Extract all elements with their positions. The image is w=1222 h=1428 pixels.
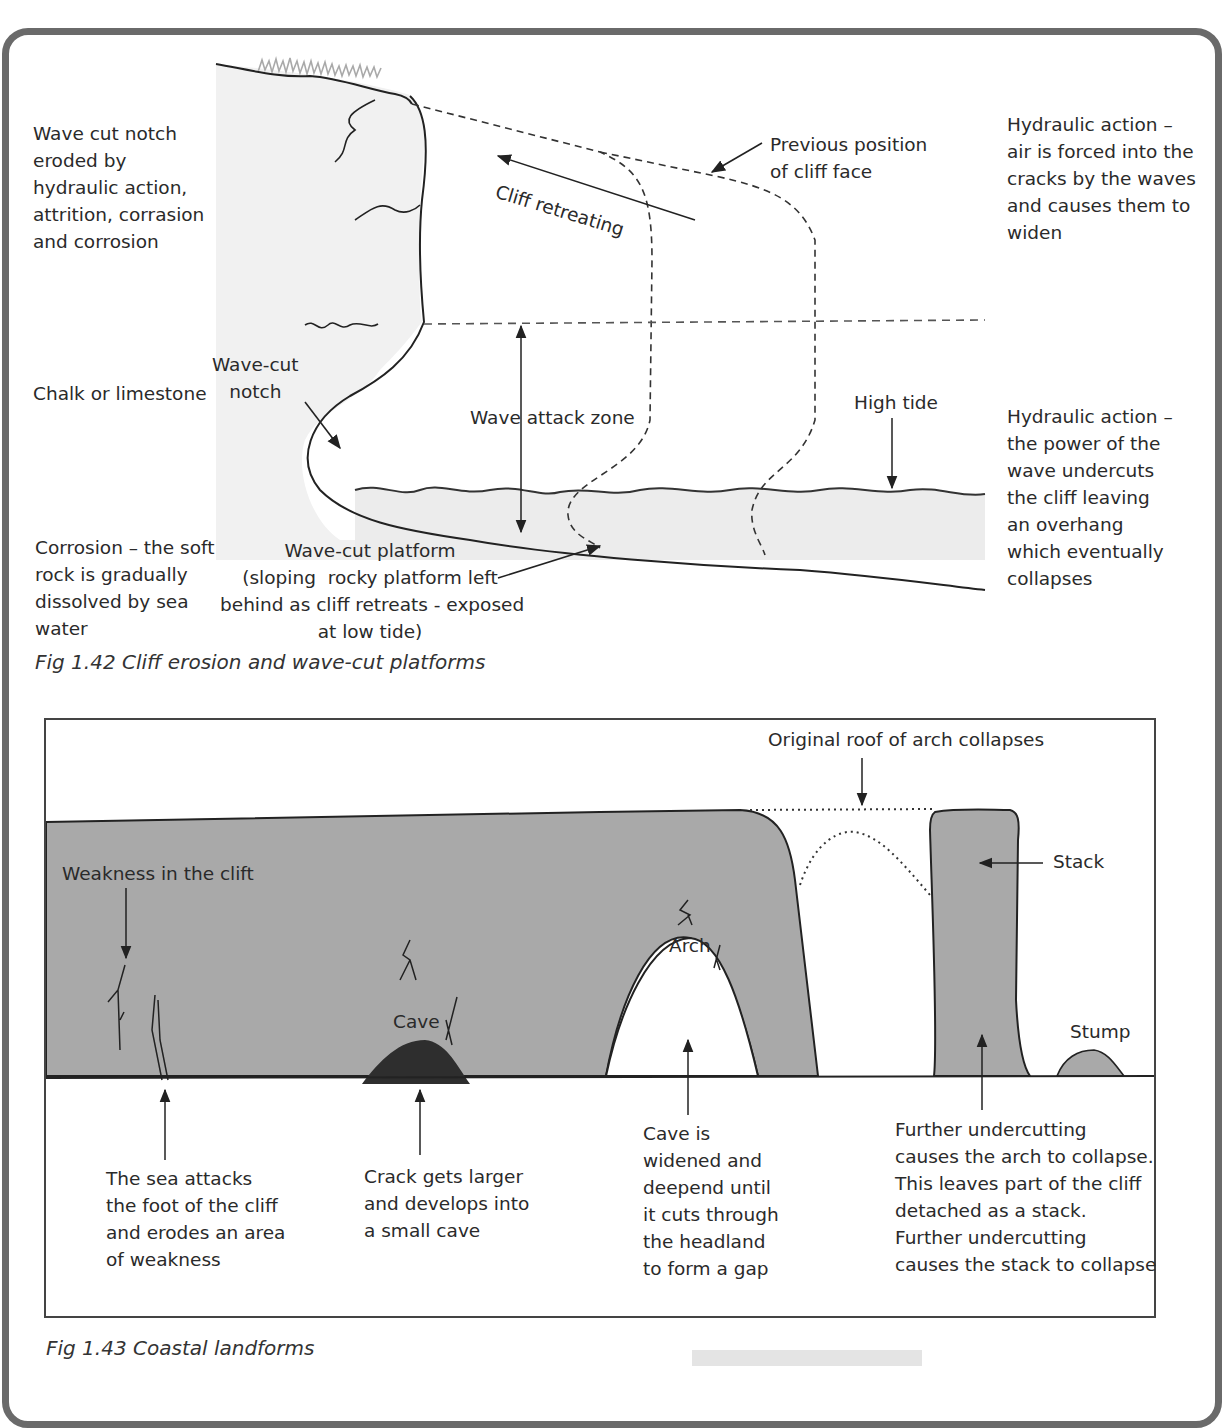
stage-1-description: The sea attacks the foot of the cliff an… <box>106 1165 285 1273</box>
label-previous-position: Previous position of cliff face <box>770 131 927 185</box>
caption-fig-1-42: Fig 1.42 Cliff erosion and wave-cut plat… <box>35 650 485 674</box>
label-stack: Stack <box>1053 848 1104 875</box>
scan-smudge <box>692 1350 922 1366</box>
label-stump: Stump <box>1070 1018 1131 1045</box>
previous-cliff-line <box>412 104 652 548</box>
label-wave-cut-notch: Wave-cut notch <box>212 351 299 405</box>
label-high-tide: High tide <box>854 389 938 416</box>
label-weakness: Weakness in the clift <box>62 860 254 887</box>
stage-4-description: Further undercutting causes the arch to … <box>895 1116 1156 1278</box>
label-hydraulic-action-power: Hydraulic action – the power of the wave… <box>1007 403 1173 592</box>
stage-3-description: Cave is widened and deepend until it cut… <box>643 1120 779 1282</box>
label-chalk-or-limestone: Chalk or limestone <box>33 380 207 407</box>
cliff-body <box>216 64 560 560</box>
label-corrosion-description: Corrosion – the soft rock is gradually d… <box>35 534 215 642</box>
label-wave-attack-zone: Wave attack zone <box>470 404 635 431</box>
stage-2-description: Crack gets larger and develops into a sm… <box>364 1163 529 1244</box>
caption-fig-1-43: Fig 1.43 Coastal landforms <box>46 1336 314 1360</box>
label-original-roof: Original roof of arch collapses <box>768 726 1044 753</box>
label-cave: Cave <box>393 1008 440 1035</box>
label-arch: Arch <box>669 932 711 959</box>
label-hydraulic-action-air: Hydraulic action – air is forced into th… <box>1007 111 1196 246</box>
label-wave-cut-notch-description: Wave cut notch eroded by hydraulic actio… <box>33 120 204 255</box>
label-wave-cut-platform: Wave-cut platform (sloping rocky platfor… <box>220 537 520 645</box>
